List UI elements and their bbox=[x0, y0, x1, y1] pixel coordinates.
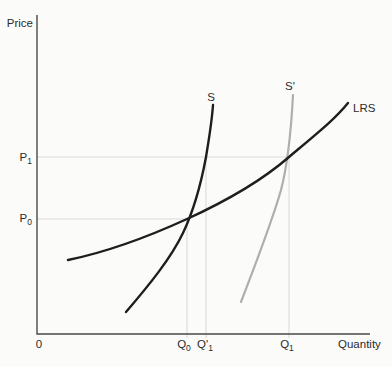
x-axis-label: Quantity bbox=[338, 338, 381, 350]
origin-label: 0 bbox=[36, 338, 42, 350]
shifted-supply-curve-s-prime bbox=[241, 95, 293, 302]
supply-diagram: Price Quantity 0 P1 P0 Q0 Q'1 Q1 S S' LR… bbox=[0, 0, 392, 367]
quantity-q0-label: Q0 bbox=[177, 338, 191, 353]
price-p0-label: P0 bbox=[20, 212, 33, 227]
y-axis-label: Price bbox=[7, 17, 33, 29]
curve-lrs-label: LRS bbox=[353, 102, 376, 114]
curve-s-prime-label: S' bbox=[285, 80, 295, 92]
quantity-q1-prime-label: Q'1 bbox=[197, 338, 213, 353]
figure-canvas: Price Quantity 0 P1 P0 Q0 Q'1 Q1 S S' LR… bbox=[0, 0, 392, 367]
price-p1-label: P1 bbox=[20, 151, 33, 166]
long-run-supply-curve-lrs bbox=[68, 103, 348, 260]
quantity-q1-label: Q1 bbox=[280, 338, 294, 353]
curve-s-label: S bbox=[207, 91, 215, 103]
figure-labels: Price Quantity 0 P1 P0 Q0 Q'1 Q1 S S' LR… bbox=[7, 17, 381, 353]
supply-curve-s bbox=[126, 105, 213, 312]
